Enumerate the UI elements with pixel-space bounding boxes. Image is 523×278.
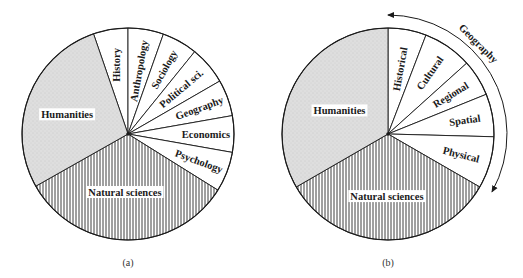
- slice-label-economics: Economics: [182, 129, 230, 140]
- svg-text:Humanities: Humanities: [41, 109, 93, 120]
- slice-label-natural-sciences: Natural sciences: [348, 190, 425, 202]
- center-dot: [126, 132, 130, 136]
- pie-diagrams: HistoryAnthropologySociologyPolitical sc…: [0, 0, 523, 278]
- svg-text:Humanities: Humanities: [314, 105, 366, 116]
- panel-caption: (a): [122, 257, 133, 269]
- svg-text:Economics: Economics: [182, 129, 230, 140]
- svg-text:Natural sciences: Natural sciences: [350, 191, 423, 202]
- pie-chart-b: HistoricalCulturalRegionalSpatialPhysica…: [282, 15, 507, 269]
- figure: HistoryAnthropologySociologyPolitical sc…: [0, 0, 523, 278]
- slice-label-natural-sciences: Natural sciences: [86, 186, 163, 198]
- slice-label-history: History: [111, 47, 122, 82]
- panel-caption: (b): [382, 257, 394, 269]
- pie-chart-a: HistoryAnthropologySociologyPolitical sc…: [22, 28, 234, 269]
- svg-text:History: History: [111, 47, 122, 82]
- center-dot: [386, 132, 390, 136]
- slice-label-humanities: Humanities: [312, 104, 368, 116]
- svg-text:Natural sciences: Natural sciences: [88, 187, 161, 198]
- slice-label-humanities: Humanities: [39, 108, 95, 120]
